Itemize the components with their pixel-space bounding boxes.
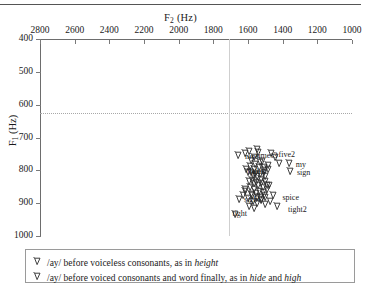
y-tick-label-500: 500	[0, 66, 33, 76]
data-label-fights: fights	[247, 167, 265, 176]
data-label-times3: times3	[256, 151, 277, 160]
x-tick-label-1000: 1000	[332, 25, 366, 35]
data-label-sign: sign	[297, 168, 310, 177]
legend-item-1: /ay/ before voiceless consonants, as in …	[33, 255, 218, 270]
data-label-tight: tight	[232, 209, 247, 218]
data-point	[234, 151, 241, 159]
data-label-spice: spice	[283, 193, 299, 202]
legend-item-label: /ay/ before voiceless consonants, as in …	[47, 258, 218, 268]
legend-item-2: /ay/ before voiced consonants and word f…	[33, 270, 301, 285]
top-horizontal-rule	[0, 4, 361, 5]
y-tick-label-800: 800	[0, 164, 33, 174]
data-point	[250, 204, 257, 212]
x-axis-title-unit: (Hz)	[174, 12, 197, 23]
formant-scatter-figure: F2 (Hz) F1 (Hz) 280026002400220020001800…	[0, 6, 361, 244]
data-label-five2: five2	[279, 150, 295, 159]
data-point	[235, 195, 242, 203]
x-tick-mark	[352, 40, 353, 44]
y-tick-mark	[36, 236, 41, 237]
data-point	[275, 159, 282, 167]
y-tick-label-900: 900	[0, 197, 33, 207]
vertical-reference-line	[229, 39, 230, 236]
legend-item-label: /ay/ before voiced consonants and word f…	[47, 273, 301, 283]
horizontal-reference-line	[40, 113, 352, 114]
y-tick-label-1000: 1000	[0, 230, 33, 240]
legend-marker-open-down-arrow-icon	[33, 272, 42, 282]
x-axis-title: F2 (Hz)	[0, 12, 361, 25]
data-label-sight: sight	[244, 195, 260, 204]
legend-marker-open-down-arrow-icon	[33, 257, 42, 267]
data-point	[286, 167, 293, 175]
data-label-tight2: tight2	[288, 205, 307, 214]
data-point	[241, 185, 248, 193]
y-tick-label-600: 600	[0, 99, 33, 109]
data-point	[273, 202, 280, 210]
data-point	[285, 159, 292, 167]
legend-box: /ay/ before voiceless consonants, as in …	[25, 249, 355, 283]
data-point	[269, 191, 276, 199]
y-tick-label-700: 700	[0, 132, 33, 142]
plot-area: ninetimes3five2mysignfightsspicesighttig…	[40, 39, 352, 236]
y-tick-label-400: 400	[0, 33, 33, 43]
